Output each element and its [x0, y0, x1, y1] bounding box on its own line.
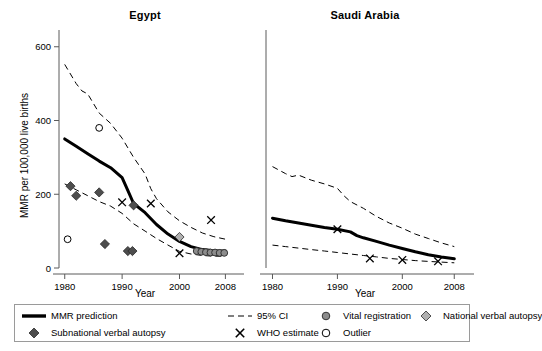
data-point-diamond-dark-3	[100, 239, 109, 248]
legend-label: Subnational verbal autopsy	[51, 327, 166, 338]
y-tick-label-0: 0	[46, 263, 51, 274]
legend-label: National verbal autopsy	[443, 310, 542, 321]
legend-label: WHO estimate	[257, 327, 319, 338]
series-mmr-prediction	[65, 139, 226, 251]
x-tick-label-2008: 2008	[215, 281, 236, 292]
legend-label: Outlier	[343, 327, 371, 338]
x-tick-label-2008: 2008	[444, 281, 465, 292]
circle-filled-icon	[313, 309, 339, 323]
data-point-cross-11	[176, 249, 184, 257]
dashed-line-icon	[227, 309, 253, 323]
data-point-cross-10	[147, 200, 155, 208]
data-point-diamond-dark-2	[95, 188, 104, 197]
data-point-cross-9	[118, 199, 126, 207]
series-95-ci-upper	[273, 167, 455, 247]
data-point-circle-open-7	[64, 236, 71, 243]
series-95-ci-lower	[65, 184, 226, 256]
plot-canvas: 0200400600198019902000200819801990200020…	[0, 0, 484, 300]
legend-label: MMR prediction	[51, 310, 118, 321]
thick-line-icon	[21, 309, 47, 323]
data-point-circle-filled-20	[221, 249, 228, 256]
data-point-diamond-dark-0	[66, 182, 75, 191]
legend-item-subnational-verbal-autopsy: Subnational verbal autopsy	[21, 323, 166, 342]
x-tick-label-1990: 1990	[327, 281, 348, 292]
data-point-circle-open-8	[96, 124, 103, 131]
legend-label: 95% CI	[257, 310, 288, 321]
data-point-cross-12	[207, 216, 215, 224]
x-tick-label-2000: 2000	[169, 281, 190, 292]
x-tick-label-1980: 1980	[262, 281, 283, 292]
y-tick-label-600: 600	[35, 41, 51, 52]
data-point-cross-1	[366, 255, 374, 263]
data-point-diamond-dark-6	[129, 201, 138, 210]
legend-item-national-verbal-autopsy: National verbal autopsy	[413, 306, 542, 325]
x-tick-label-2000: 2000	[392, 281, 413, 292]
cross-icon	[227, 326, 253, 340]
legend-item-who-estimate: WHO estimate	[227, 323, 319, 342]
x-tick-label-1990: 1990	[112, 281, 133, 292]
data-point-diamond-dark-1	[72, 191, 81, 200]
y-tick-label-400: 400	[35, 115, 51, 126]
diamond-dark-icon	[21, 326, 47, 340]
circle-open-icon	[313, 326, 339, 340]
legend-label: Vital registration	[343, 310, 411, 321]
y-tick-label-200: 200	[35, 189, 51, 200]
x-tick-label-1980: 1980	[54, 281, 75, 292]
chart-legend: MMR prediction95% CIVital registrationNa…	[14, 304, 470, 342]
legend-item-outlier: Outlier	[313, 323, 371, 342]
diamond-light-icon	[413, 309, 439, 323]
